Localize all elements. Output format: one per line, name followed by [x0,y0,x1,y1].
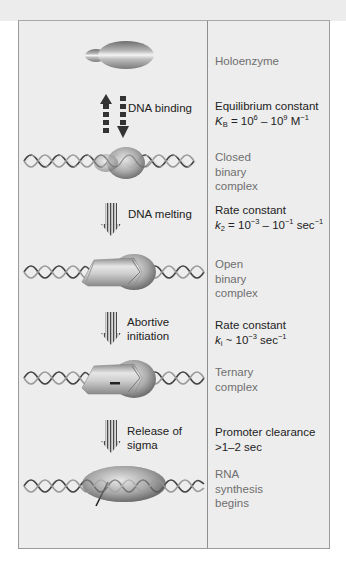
param-title: Rate constant [215,203,323,218]
param-formula: ki ~ 10−3 sec−1 [215,333,287,348]
param-title: Equilibrium constant [215,99,319,114]
param-value: >1–2 sec [215,440,315,455]
ternary-complex-icon [24,358,204,400]
state-label-ternary-complex: Ternary complex [215,365,258,394]
step-param-dna-binding: Equilibrium constant KB = 106 – 109 M−1 [215,99,319,129]
state-label-holoenzyme: Holoenzyme [215,54,279,69]
open-complex-icon [24,252,204,292]
holoenzyme-icon [84,40,156,70]
step-param-release-of-sigma: Promoter clearance >1–2 sec [215,425,315,455]
step-param-dna-melting: Rate constant k2 = 10−3 – 10−1 sec−1 [215,203,323,233]
state-label-rna-synthesis-begins: RNA synthesis begins [215,467,263,511]
elongation-complex-icon [24,462,204,518]
step-label-dna-melting: DNA melting [128,207,192,221]
param-title: Promoter clearance [215,425,315,440]
state-label-open-binary-complex: Open binary complex [215,257,258,301]
rna-transcript-icon [110,382,120,385]
param-formula: k2 = 10−3 – 10−1 sec−1 [215,218,323,233]
step-label-dna-binding: DNA binding [128,101,192,115]
param-title: Rate constant [215,318,287,333]
top-margin [0,0,346,21]
forward-arrow-icon [101,312,121,346]
step-label-release-of-sigma: Release of sigma [127,424,182,452]
step-param-abortive-initiation: Rate constant ki ~ 10−3 sec−1 [215,318,287,348]
closed-complex-icon [24,145,204,181]
step-label-abortive-initiation: Abortive initiation [127,315,169,343]
forward-arrow-icon [101,203,121,237]
state-label-closed-binary-complex: Closed binary complex [215,150,258,194]
forward-arrow-icon [101,420,121,454]
column-divider [207,21,208,548]
param-formula: KB = 106 – 109 M−1 [215,114,319,129]
